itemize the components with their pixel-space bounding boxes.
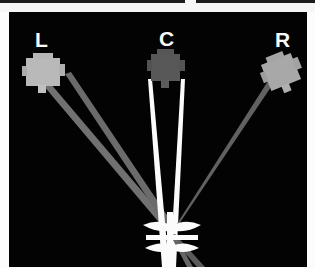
camera-label-left: L xyxy=(35,29,48,50)
right-camera-ray xyxy=(173,72,280,230)
top-white-band xyxy=(0,3,315,12)
center-camera-main xyxy=(151,54,180,81)
camera-label-center: C xyxy=(159,28,174,49)
left-margin-rule xyxy=(0,12,9,267)
left-camera-right-tab xyxy=(59,64,65,76)
left-camera-body xyxy=(22,53,65,93)
figure-root: L C R xyxy=(0,0,315,268)
scene-graphics xyxy=(9,12,307,267)
left-camera-left-tab xyxy=(22,66,27,76)
center-camera-left-tab xyxy=(147,60,152,71)
target-spine xyxy=(167,212,173,267)
left-camera-top-tab xyxy=(33,53,53,59)
right-margin-rule xyxy=(307,12,315,267)
left-camera-main xyxy=(26,58,60,86)
scene-panel: L C R xyxy=(9,12,307,267)
center-camera-lens xyxy=(161,80,169,88)
camera-label-right: R xyxy=(275,29,290,50)
center-camera-right-tab xyxy=(179,60,185,71)
center-camera-body xyxy=(147,49,185,88)
left-camera-lens xyxy=(38,85,46,93)
top-band-notch xyxy=(185,0,196,4)
right-ray-shaft xyxy=(173,81,273,230)
